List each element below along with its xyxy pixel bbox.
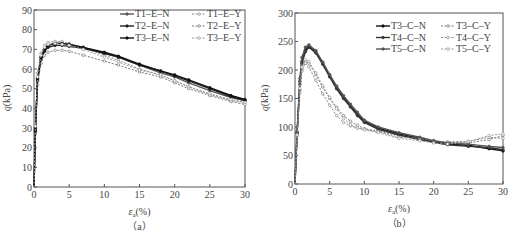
data-point-marker (321, 93, 324, 96)
y-tick-label: 300 (278, 8, 293, 19)
series-line-t5-c-n (295, 45, 503, 184)
legend-marker (447, 25, 450, 28)
x-tick-label: 25 (205, 189, 215, 200)
data-point-marker (356, 127, 359, 130)
legend-label: T5–C–Y (456, 43, 491, 54)
data-point-marker (398, 131, 401, 134)
x-tick-label: 0 (32, 189, 37, 200)
data-point-marker (82, 54, 85, 57)
x-axis-label: εa(%) (388, 203, 410, 216)
data-point-marker (419, 139, 422, 142)
y-axis-label: q(kPa) (1, 85, 13, 112)
data-point-marker (43, 54, 46, 57)
data-point-marker (159, 70, 162, 73)
data-point-marker (117, 61, 120, 64)
data-point-marker (103, 56, 106, 59)
y-tick-label: 0 (288, 179, 293, 190)
data-point-marker (82, 48, 85, 51)
data-point-marker (308, 60, 311, 63)
data-point-marker (187, 79, 190, 82)
data-point-marker (296, 134, 299, 137)
y-tick-label: 10 (22, 162, 32, 173)
legend: T1–E–NT2–E–NT3–E–NT1–E–YT2–E–YT3–E–Y (120, 8, 241, 43)
data-point-marker (209, 86, 212, 89)
data-point-marker (40, 54, 43, 57)
data-point-marker (301, 56, 304, 59)
legend-label: T4–C–N (391, 32, 426, 43)
data-point-marker (304, 46, 307, 49)
y-tick-label: 0 (27, 182, 32, 193)
data-point-marker (61, 43, 64, 46)
data-point-marker (335, 85, 338, 88)
legend-marker (382, 36, 385, 39)
data-point-marker (138, 63, 141, 66)
data-point-marker (342, 117, 345, 120)
data-point-marker (335, 107, 338, 110)
data-point-marker (301, 66, 304, 69)
data-point-marker (34, 125, 37, 128)
data-point-marker (304, 58, 307, 61)
data-point-marker (377, 126, 380, 129)
data-point-marker (363, 129, 366, 132)
legend-marker (382, 48, 385, 51)
data-point-marker (230, 94, 233, 97)
data-point-marker (47, 51, 50, 54)
y-tick-label: 40 (22, 103, 32, 114)
data-point-marker (502, 137, 505, 140)
data-point-marker (61, 49, 64, 52)
y-tick-label: 150 (278, 93, 293, 104)
data-point-marker (502, 133, 505, 136)
data-point-marker (467, 141, 470, 144)
data-point-marker (299, 87, 302, 90)
chart-panel-a: 0510152025300102030405060708090q(kPa)εa(… (1, 5, 250, 233)
data-point-marker (54, 49, 57, 52)
y-tick-label: 80 (22, 24, 32, 35)
data-point-marker (36, 76, 39, 79)
panel-caption: （b） (387, 218, 412, 229)
x-tick-label: 15 (394, 186, 404, 197)
y-tick-label: 70 (22, 44, 32, 55)
legend-label: T3–C–N (391, 20, 426, 31)
data-point-marker (342, 121, 345, 124)
legend-marker (382, 25, 385, 28)
legend-label: T3–E–Y (207, 32, 241, 43)
y-tick-label: 90 (22, 5, 32, 16)
data-point-marker (68, 50, 71, 53)
data-point-marker (187, 85, 190, 88)
x-tick-label: 0 (293, 186, 298, 197)
legend-label: T3–E–N (135, 32, 169, 43)
data-point-marker (321, 61, 324, 64)
legend-marker (198, 25, 201, 28)
data-point-marker (308, 44, 311, 47)
data-point-marker (315, 72, 318, 75)
data-point-marker (377, 131, 380, 134)
data-point-marker (138, 69, 141, 72)
series-line-t3-c-y (295, 62, 503, 185)
data-point-marker (103, 51, 106, 54)
data-point-marker (363, 119, 366, 122)
data-point-marker (502, 146, 505, 149)
x-tick-label: 20 (429, 186, 439, 197)
data-point-marker (446, 143, 449, 146)
legend-marker (198, 13, 201, 16)
series-line-t4-c-y (295, 63, 503, 184)
data-point-marker (335, 114, 338, 117)
data-point-marker (54, 42, 57, 45)
x-tick-label: 15 (135, 189, 145, 200)
y-tick-label: 100 (278, 122, 293, 133)
legend-label: T2–E–N (135, 20, 169, 31)
legend-marker (126, 13, 129, 16)
y-axis-label: q(kPa) (259, 85, 271, 112)
data-point-marker (103, 60, 106, 63)
x-tick-label: 20 (170, 189, 180, 200)
data-point-marker (117, 64, 120, 67)
data-point-marker (68, 44, 71, 47)
data-point-marker (47, 43, 50, 46)
data-point-marker (321, 85, 324, 88)
legend-label: T1–E–Y (207, 8, 241, 19)
data-point-marker (230, 98, 233, 101)
data-point-marker (419, 136, 422, 139)
legend-label: T5–C–N (391, 43, 426, 54)
y-tick-label: 20 (22, 142, 32, 153)
data-point-marker (356, 111, 359, 114)
